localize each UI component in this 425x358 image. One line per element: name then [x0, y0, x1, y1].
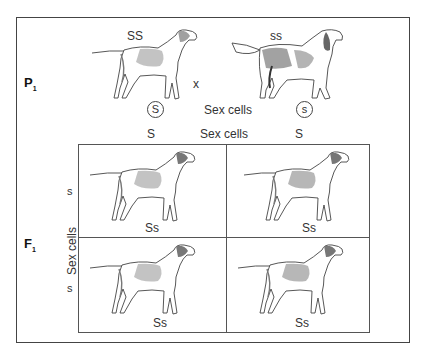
offspring-dog-icon [88, 150, 203, 225]
punnett-top-label: Sex cells [200, 128, 248, 140]
offspring-dog-icon [242, 150, 357, 225]
gamete-left-circled: S [147, 101, 164, 118]
f1-generation-label: F1 [24, 236, 36, 253]
punnett-vertical-divider [226, 145, 227, 332]
pointer-dog-parent-icon [90, 28, 205, 103]
offspring-genotype-1: Ss [145, 222, 159, 234]
p1-generation-label: P1 [24, 75, 37, 92]
setter-dog-parent-icon [232, 28, 362, 103]
offspring-dog-icon [236, 243, 351, 318]
offspring-genotype-3: Ss [153, 317, 167, 329]
offspring-dog-icon [88, 243, 203, 318]
gametes-label: Sex cells [204, 104, 252, 116]
row-allele-2: s [67, 283, 73, 294]
gamete-right-circled: s [296, 101, 313, 118]
cross-symbol: x [193, 78, 199, 90]
column-allele-1: S [147, 128, 155, 140]
punnett-side-label: Sex cells [65, 227, 79, 275]
row-allele-1: s [67, 186, 73, 197]
offspring-genotype-2: Ss [302, 222, 316, 234]
offspring-genotype-4: Ss [295, 317, 309, 329]
column-allele-2: S [295, 128, 303, 140]
punnett-horizontal-divider [79, 237, 369, 238]
